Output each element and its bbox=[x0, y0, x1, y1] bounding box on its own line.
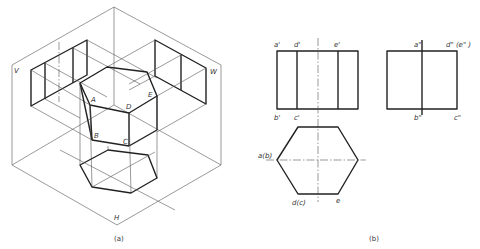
plane-label-h: H bbox=[114, 214, 120, 222]
label-d-prime: d' bbox=[294, 41, 300, 49]
label-de-double-prime: d" (e" ) bbox=[446, 41, 471, 49]
label-e: e bbox=[336, 197, 340, 205]
vertex-label-c: C bbox=[123, 138, 128, 146]
label-d-c: d(c) bbox=[292, 199, 306, 207]
figure-a-isometric: V W H A D E B C (a) bbox=[12, 7, 221, 243]
label-a-double-prime: a" bbox=[414, 41, 422, 49]
caption-b: (b) bbox=[369, 235, 379, 243]
side-view: a" d" (e" ) b" c" bbox=[387, 40, 471, 122]
h-plane-projection bbox=[60, 146, 175, 210]
hexagonal-prism bbox=[80, 67, 157, 193]
label-c-double-prime: c" bbox=[454, 114, 461, 122]
caption-a: (a) bbox=[114, 235, 124, 243]
projection-diagram: V W H A D E B C (a) a' d' e' b' c' a" d"… bbox=[0, 0, 480, 249]
plane-label-w: W bbox=[210, 68, 218, 76]
vertex-label-a: A bbox=[90, 96, 96, 104]
label-b-prime: b' bbox=[274, 114, 280, 122]
projection-planes-outline bbox=[12, 7, 221, 225]
plane-label-v: V bbox=[14, 67, 20, 75]
vertex-label-d: D bbox=[126, 103, 132, 111]
vertex-label-e: E bbox=[148, 91, 153, 99]
front-view: a' d' e' b' c' bbox=[274, 38, 358, 202]
label-b-double-prime: b" bbox=[414, 114, 422, 122]
label-a-b: a(b) bbox=[258, 152, 272, 160]
label-e-prime: e' bbox=[334, 41, 340, 49]
figure-b-orthographic: a' d' e' b' c' a" d" (e" ) b" c" a(b) d(… bbox=[258, 38, 471, 243]
label-c-prime: c' bbox=[294, 114, 300, 122]
vertex-label-b: B bbox=[94, 132, 99, 140]
label-a-prime: a' bbox=[274, 41, 280, 49]
prism-top-face bbox=[80, 67, 157, 113]
top-view: a(b) d(c) e bbox=[258, 127, 366, 207]
v-plane-projection bbox=[31, 40, 157, 140]
